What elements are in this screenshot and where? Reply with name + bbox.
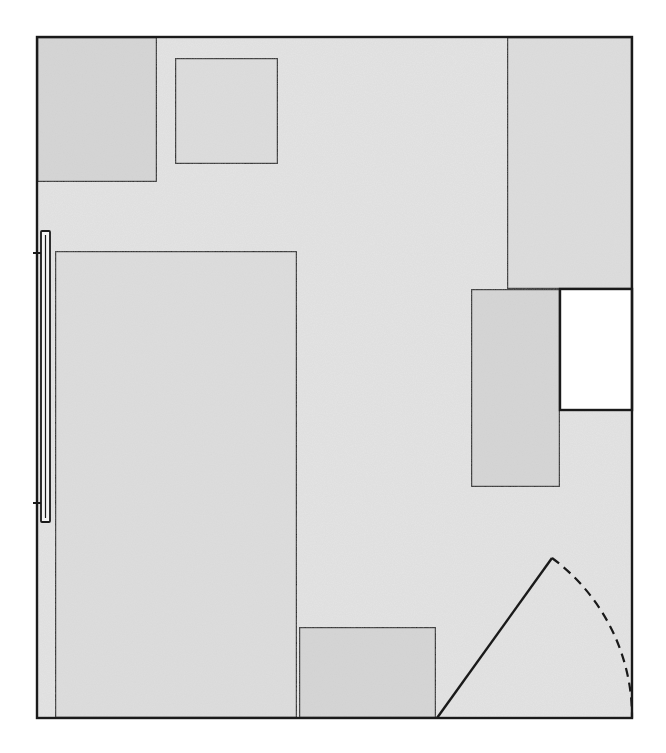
desk-rectangle [471,289,560,487]
bottom-box [299,627,436,718]
top-square [175,58,278,164]
top-left-block [37,37,157,182]
floor-plan-canvas [0,0,666,753]
open-box [560,289,632,410]
window [33,231,50,522]
top-right-tall-block [507,37,632,289]
floor-plan-drawing [0,0,666,753]
large-rectangle [55,251,297,718]
